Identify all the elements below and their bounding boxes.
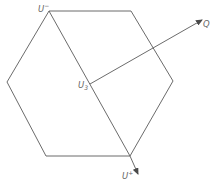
label-q: Q xyxy=(203,19,210,29)
label-u-minus: U− xyxy=(38,2,49,14)
label-u-plus: U+ xyxy=(122,169,133,181)
label-u3: U3 xyxy=(78,80,88,91)
diagonal-u-minus-to-u-plus xyxy=(49,11,130,156)
vector-u3-to-q xyxy=(90,20,202,84)
hexagon-diagram: U− U3 Q U+ xyxy=(0,0,213,186)
